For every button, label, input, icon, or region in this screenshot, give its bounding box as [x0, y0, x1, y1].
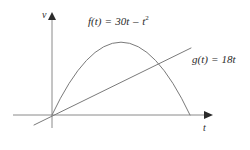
f-exponent: 2	[145, 14, 149, 22]
f-function-label: f(t) = 30t – t2	[88, 16, 149, 27]
g-term-one: 18t	[222, 53, 236, 65]
f-minus-sign: –	[132, 15, 140, 27]
line-curve-g	[34, 48, 191, 125]
g-equals-sign: =	[211, 53, 219, 65]
parabola-curve-f	[52, 42, 190, 115]
f-function-arg: (t)	[91, 15, 101, 27]
g-function-label: g(t) = 18t	[192, 54, 236, 65]
t-axis-label: t	[203, 123, 206, 133]
f-equals-sign: =	[104, 15, 112, 27]
f-term-one: 30t	[115, 15, 129, 27]
v-axis-label: v	[42, 10, 46, 20]
g-function-arg: (t)	[198, 53, 208, 65]
t-axis-arrowhead-icon	[204, 111, 213, 119]
v-axis-arrowhead-icon	[48, 12, 56, 20]
math-figure: v t f(t) = 30t – t2 g(t) = 18t	[0, 0, 250, 150]
